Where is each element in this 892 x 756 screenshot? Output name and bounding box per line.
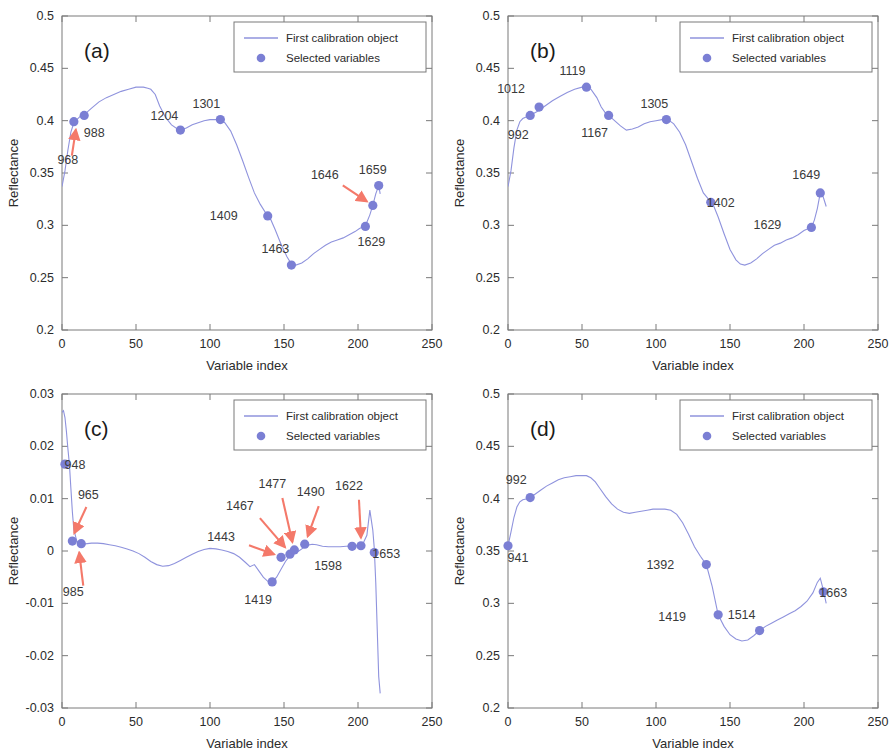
annotation-arrow bbox=[260, 518, 285, 547]
y-tick-label: 0.45 bbox=[30, 61, 54, 75]
x-tick-label: 250 bbox=[422, 337, 443, 351]
x-tick-label: 50 bbox=[575, 715, 589, 729]
legend-line-label: First calibration object bbox=[732, 32, 845, 44]
legend-marker-swatch bbox=[257, 54, 266, 63]
selected-variable-marker bbox=[807, 223, 816, 232]
selected-variable-marker bbox=[534, 102, 543, 111]
selected-variable-marker bbox=[356, 541, 365, 550]
legend-box bbox=[680, 22, 872, 72]
y-axis-label: Reflectance bbox=[6, 139, 21, 208]
x-axis-label: Variable index bbox=[652, 358, 734, 373]
panel-a: 0501001502002500.20.250.30.350.40.450.5V… bbox=[0, 0, 446, 378]
selected-variable-marker bbox=[368, 201, 377, 210]
x-tick-label: 100 bbox=[646, 337, 667, 351]
variable-label: 1646 bbox=[311, 168, 339, 182]
legend-line-label: First calibration object bbox=[732, 410, 845, 422]
variable-label: 988 bbox=[84, 126, 105, 140]
x-tick-label: 50 bbox=[129, 715, 143, 729]
legend-box bbox=[234, 22, 426, 72]
selected-variable-marker bbox=[816, 188, 825, 197]
variable-label: 992 bbox=[506, 473, 527, 487]
x-tick-label: 250 bbox=[422, 715, 443, 729]
panel-title: (a) bbox=[84, 39, 110, 62]
selected-variable-marker bbox=[702, 560, 711, 569]
selected-variable-marker bbox=[526, 493, 535, 502]
variable-label: 992 bbox=[508, 128, 529, 142]
x-tick-label: 200 bbox=[794, 337, 815, 351]
variable-label: 1463 bbox=[261, 242, 289, 256]
annotation-arrow bbox=[282, 498, 292, 542]
y-tick-label: 0.5 bbox=[37, 9, 54, 23]
figure-panel-grid: 0501001502002500.20.250.30.350.40.450.5V… bbox=[0, 0, 892, 756]
legend-line-label: First calibration object bbox=[286, 410, 399, 422]
variable-label: 1204 bbox=[150, 109, 178, 123]
variable-label: 1629 bbox=[753, 218, 781, 232]
variable-label: 1419 bbox=[244, 593, 272, 607]
annotation-arrow bbox=[79, 553, 83, 586]
x-axis-label: Variable index bbox=[206, 736, 288, 751]
variable-label: 1598 bbox=[314, 559, 342, 573]
y-tick-label: 0.35 bbox=[476, 544, 500, 558]
x-tick-label: 200 bbox=[794, 715, 815, 729]
selected-variable-marker bbox=[69, 117, 78, 126]
selected-variable-marker bbox=[80, 111, 89, 120]
y-tick-label: 0.5 bbox=[483, 387, 500, 401]
panel-b: 0501001502002500.20.250.30.350.40.450.5V… bbox=[446, 0, 892, 378]
legend-marker-label: Selected variables bbox=[286, 52, 380, 64]
legend-box bbox=[234, 400, 426, 450]
y-tick-label: 0.25 bbox=[30, 271, 54, 285]
y-tick-label: 0.3 bbox=[483, 218, 500, 232]
variable-label: 1629 bbox=[357, 235, 385, 249]
y-tick-label: 0.2 bbox=[37, 323, 54, 337]
y-tick-label: 0.25 bbox=[476, 271, 500, 285]
panel-a-plot: 0501001502002500.20.250.30.350.40.450.5V… bbox=[0, 0, 446, 378]
panel-b-plot: 0501001502002500.20.250.30.350.40.450.5V… bbox=[446, 0, 892, 378]
variable-label: 1659 bbox=[359, 163, 387, 177]
legend-marker-label: Selected variables bbox=[286, 430, 380, 442]
y-axis-label: Reflectance bbox=[452, 139, 467, 208]
legend-marker-swatch bbox=[703, 432, 712, 441]
variable-label: 1301 bbox=[192, 97, 220, 111]
y-tick-label: 0.35 bbox=[30, 166, 54, 180]
x-axis-label: Variable index bbox=[652, 736, 734, 751]
y-tick-label: 0.35 bbox=[476, 166, 500, 180]
panel-c-plot: 050100150200250-0.03-0.02-0.0100.010.020… bbox=[0, 378, 446, 756]
legend-marker-swatch bbox=[257, 432, 266, 441]
legend-line-label: First calibration object bbox=[286, 32, 399, 44]
selected-variable-marker bbox=[276, 553, 285, 562]
annotation-arrow bbox=[74, 507, 86, 533]
variable-label: 1514 bbox=[728, 608, 756, 622]
legend-marker-label: Selected variables bbox=[732, 430, 826, 442]
panel-c: 050100150200250-0.03-0.02-0.0100.010.020… bbox=[0, 378, 446, 756]
x-tick-label: 200 bbox=[348, 715, 369, 729]
variable-label: 941 bbox=[508, 551, 529, 565]
y-tick-label: 0.3 bbox=[483, 596, 500, 610]
selected-variable-marker bbox=[268, 577, 277, 586]
selected-variable-marker bbox=[755, 626, 764, 635]
x-tick-label: 250 bbox=[868, 337, 889, 351]
variable-label: 1419 bbox=[658, 610, 686, 624]
variable-label: 1392 bbox=[646, 558, 674, 572]
y-tick-label: 0.2 bbox=[483, 701, 500, 715]
legend-marker-swatch bbox=[703, 54, 712, 63]
y-tick-label: 0.01 bbox=[30, 492, 54, 506]
y-tick-label: 0.25 bbox=[476, 649, 500, 663]
x-tick-label: 200 bbox=[348, 337, 369, 351]
annotation-arrow bbox=[359, 500, 361, 538]
data-curve bbox=[508, 87, 826, 265]
selected-variable-marker bbox=[216, 115, 225, 124]
variable-label: 1167 bbox=[581, 126, 608, 140]
annotation-arrow bbox=[343, 185, 367, 201]
y-tick-label: -0.03 bbox=[26, 701, 55, 715]
panel-title: (d) bbox=[530, 417, 556, 440]
selected-variable-marker bbox=[374, 181, 383, 190]
x-tick-label: 100 bbox=[200, 715, 221, 729]
y-tick-label: 0.4 bbox=[483, 492, 500, 506]
y-tick-label: -0.01 bbox=[26, 596, 55, 610]
x-tick-label: 150 bbox=[274, 715, 295, 729]
legend-marker-label: Selected variables bbox=[732, 52, 826, 64]
y-tick-label: 0 bbox=[47, 544, 54, 558]
selected-variable-marker bbox=[77, 539, 86, 548]
y-tick-label: 0.45 bbox=[476, 439, 500, 453]
variable-label: 1663 bbox=[819, 586, 847, 600]
